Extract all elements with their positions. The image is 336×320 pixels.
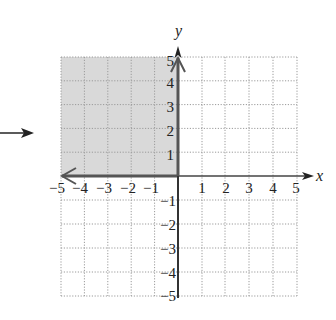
svg-text:−4: −4 xyxy=(72,180,88,196)
svg-text:3: 3 xyxy=(167,99,175,115)
svg-text:5: 5 xyxy=(167,53,175,69)
svg-text:−3: −3 xyxy=(160,241,176,257)
svg-text:−5: −5 xyxy=(49,180,65,196)
x-axis-label: x xyxy=(315,167,323,184)
svg-text:4: 4 xyxy=(269,180,277,196)
svg-text:−4: −4 xyxy=(160,265,176,281)
svg-text:3: 3 xyxy=(245,180,253,196)
svg-text:1: 1 xyxy=(198,180,206,196)
svg-text:4: 4 xyxy=(167,75,175,91)
svg-text:−1: −1 xyxy=(143,180,159,196)
svg-text:−3: −3 xyxy=(96,180,112,196)
shaded-region xyxy=(61,57,178,176)
right-arrow-icon xyxy=(0,128,34,138)
svg-text:5: 5 xyxy=(292,180,300,196)
svg-text:−1: −1 xyxy=(160,193,176,209)
svg-text:2: 2 xyxy=(222,180,230,196)
coordinate-plane: x y −5 −4 −3 −2 −1 1 2 3 4 5 5 4 3 2 1 −… xyxy=(0,0,336,320)
svg-text:−5: −5 xyxy=(160,288,176,304)
svg-text:1: 1 xyxy=(167,147,175,163)
y-axis-label: y xyxy=(173,22,183,40)
svg-text:2: 2 xyxy=(167,123,175,139)
svg-text:−2: −2 xyxy=(120,180,136,196)
svg-text:−2: −2 xyxy=(160,217,176,233)
